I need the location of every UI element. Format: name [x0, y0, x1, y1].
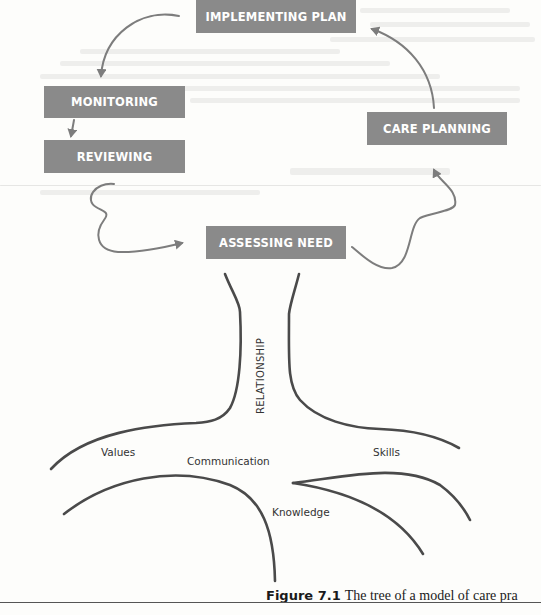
arrow-implementing-to-monitoring: [101, 15, 179, 76]
figure-number: Figure 7.1: [266, 588, 341, 603]
stage-reviewing: REVIEWING: [44, 140, 185, 173]
root-label-values: Values: [101, 446, 135, 458]
trunk-left: [51, 274, 241, 469]
stage-implementing-plan: IMPLEMENTING PLAN: [196, 0, 356, 33]
trunk-right: [289, 274, 459, 448]
trunk-label-relationship: RELATIONSHIP: [255, 338, 266, 414]
root-label-knowledge: Knowledge: [272, 506, 330, 518]
arrow-assessing-to-care-planning: [352, 170, 455, 268]
root-label-communication: Communication: [187, 455, 270, 467]
figure-caption-text: The tree of a model of care pra: [345, 588, 518, 603]
root-skills-lower: [293, 483, 423, 554]
stage-care-planning: CARE PLANNING: [367, 112, 507, 145]
arrow-monitoring-to-reviewing: [71, 120, 74, 136]
arrow-reviewing-to-assessing: [91, 184, 182, 252]
arrow-care-planning-to-implementing: [372, 29, 434, 108]
stage-monitoring: MONITORING: [44, 86, 185, 118]
stage-assessing-need: ASSESSING NEED: [206, 226, 346, 259]
root-label-skills: Skills: [373, 446, 400, 458]
root-knowledge: [64, 476, 275, 581]
caption-rule: [0, 602, 541, 603]
